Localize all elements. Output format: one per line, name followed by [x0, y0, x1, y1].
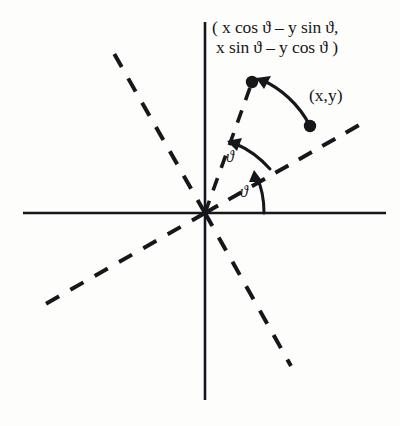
angle-label-upper: ϑ [226, 148, 234, 166]
angle-arc-lower [257, 178, 264, 213]
ray-lower-left [42, 213, 205, 306]
original-point-dot [304, 120, 316, 132]
rotation-arrow-between-points [262, 80, 310, 126]
rotated-point-dot [246, 76, 258, 88]
rotated-point-label-line2: x sin ϑ – y cos ϑ ) [212, 38, 338, 58]
ray-lower-right [205, 213, 291, 366]
rotated-point-label: ( x cos ϑ – y sin ϑ, x sin ϑ – y cos ϑ ) [212, 18, 338, 57]
angle-label-lower: ϑ [240, 183, 248, 201]
ray-through-original-point [205, 124, 361, 213]
angle-arc-lower-head [249, 170, 263, 182]
diagram-canvas [0, 0, 400, 426]
original-point-label: (x,y) [309, 86, 343, 106]
rotation-diagram: ( x cos ϑ – y sin ϑ, x sin ϑ – y cos ϑ )… [0, 0, 400, 426]
rotated-point-label-line1: ( x cos ϑ – y sin ϑ, [212, 18, 338, 38]
angle-arc-upper [236, 144, 270, 169]
ray-upper-left [112, 50, 205, 213]
